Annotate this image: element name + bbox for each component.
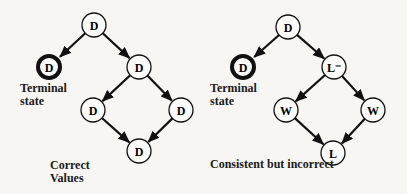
edge-arrow [60,33,85,57]
node-label: D [45,61,54,75]
state-node: D [127,55,151,79]
state-node: D [127,139,151,163]
state-node: D [169,98,193,122]
node-label: D [89,104,98,118]
terminal-state-node: D [38,56,60,78]
edge-arrow [254,35,279,57]
state-node: D [81,98,105,122]
edge-arrow [342,119,365,144]
edge-arrow [296,75,325,101]
state-node: W [274,98,298,122]
state-node: W [361,98,385,122]
node-label: D [239,61,248,75]
right-diagram-caption: Consistent but incorrect [210,158,334,171]
left-terminal-caption: Terminal state [20,82,67,108]
state-node: D [82,13,106,37]
edge-arrow [342,76,364,100]
node-label: D [177,104,186,118]
node-label: L⁻ [327,61,341,75]
node-label: D [90,19,99,33]
edge-arrow [102,75,130,101]
right-terminal-caption: Terminal state [210,82,257,108]
edge-arrow [103,33,130,58]
edge-arrow [147,76,172,101]
left-diagram-caption: Correct Values [50,159,90,185]
terminal-state-node: D [232,56,254,78]
state-node: L⁻ [322,55,346,79]
node-label: D [284,21,293,35]
node-label: W [280,104,292,118]
node-label: D [135,145,144,159]
edge-arrow [295,118,324,144]
state-node: D [276,15,300,39]
node-label: D [135,61,144,75]
node-label: W [367,104,379,118]
edge-arrow [102,118,129,142]
edge-arrow [148,118,172,142]
edge-arrow [297,35,324,59]
